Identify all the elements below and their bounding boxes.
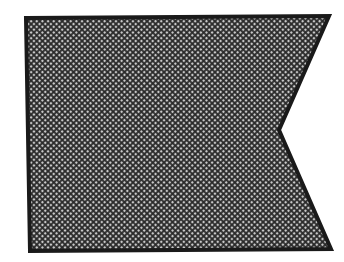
pennant-figure [0,0,344,262]
